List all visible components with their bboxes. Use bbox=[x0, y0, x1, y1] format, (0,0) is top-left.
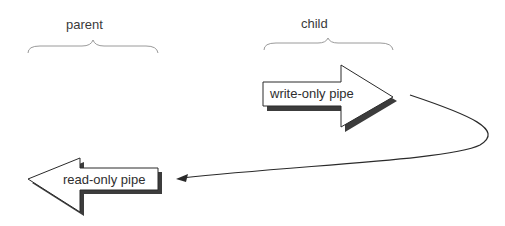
read-pipe-label: read-only pipe bbox=[63, 172, 145, 187]
diagram-canvas bbox=[0, 0, 505, 226]
write-pipe-label: write-only pipe bbox=[270, 86, 354, 101]
parent-label: parent bbox=[66, 17, 103, 32]
connector-arrowhead-icon bbox=[176, 174, 188, 182]
child-brace bbox=[264, 38, 393, 50]
child-label: child bbox=[301, 16, 328, 31]
parent-brace bbox=[28, 40, 158, 53]
